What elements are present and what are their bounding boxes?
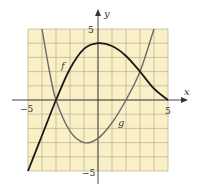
function-graph: x y −5 5 5 −5 f g <box>0 0 200 187</box>
x-axis-label: x <box>184 86 190 97</box>
x-min-tick-label: −5 <box>20 104 34 114</box>
x-axis-arrow-icon <box>181 97 188 103</box>
y-max-tick-label: 5 <box>88 25 94 35</box>
y-min-tick-label: −5 <box>82 168 96 178</box>
y-axis-label: y <box>103 8 110 19</box>
y-axis-arrow-icon <box>95 9 101 16</box>
g-curve-label: g <box>118 117 124 128</box>
x-max-tick-label: 5 <box>165 106 171 116</box>
